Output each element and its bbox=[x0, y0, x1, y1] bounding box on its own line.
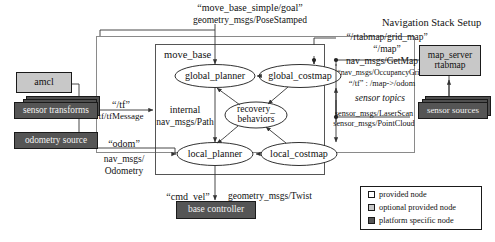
global-planner-node bbox=[175, 65, 255, 88]
laserscan-type-label: sensor_msgs/LaserScan bbox=[335, 110, 413, 119]
tf-type-label: tf/tfMessage bbox=[99, 112, 144, 121]
edge-recovery-to-local-planner bbox=[217, 126, 238, 143]
internal-label-line1: internal bbox=[170, 105, 201, 116]
legend-label-optional: optional provided node bbox=[379, 203, 456, 212]
node-sensor-transforms[interactable]: sensor transforms bbox=[14, 102, 98, 119]
sensor-topics-label: sensor topics bbox=[355, 94, 405, 104]
tf-map-odom-label: “/tf” : /map->/odom bbox=[349, 80, 415, 89]
odom-type-line2: Odometry bbox=[105, 167, 144, 177]
map-server-label-line2: rtabmap bbox=[434, 61, 465, 71]
edge-global-costmap-to-recovery bbox=[268, 87, 288, 104]
map-type-label: nav_msgs/GetMap bbox=[346, 57, 418, 67]
goal-topic-label: “move_base_simple/goal” bbox=[197, 3, 303, 14]
legend-swatch-optional bbox=[368, 204, 375, 211]
pointcloud-type-label: sensor_msgs/PointCloud bbox=[333, 120, 414, 129]
tf-topic-label: “/tf” bbox=[112, 100, 130, 111]
legend-swatch-platform bbox=[368, 217, 375, 224]
legend-row-platform: platform specific node bbox=[368, 216, 454, 225]
edge-goal-branch-left bbox=[100, 30, 215, 36]
node-base-controller[interactable]: base controller bbox=[176, 201, 256, 219]
junction-dot-costmap-bus bbox=[312, 58, 316, 62]
grid-map-topic-label: “/rtabmap/grid_map” bbox=[346, 33, 427, 43]
map-server-label-line1: map_server bbox=[428, 51, 472, 61]
goal-type-label: geometry_msgs/PoseStamped bbox=[193, 16, 307, 26]
odom-topic-label: “odom” bbox=[108, 139, 140, 150]
edge-outer-to-map-bus bbox=[314, 38, 336, 45]
legend-row-provided: provided node bbox=[368, 190, 427, 199]
legend-swatch-provided bbox=[368, 191, 375, 198]
local-planner-node bbox=[177, 143, 253, 166]
local-costmap-node bbox=[261, 143, 337, 166]
junction-dot-map-bus bbox=[334, 58, 338, 62]
navigation-stack-diagram: Navigation Stack Setup “move_base_simple… bbox=[0, 0, 495, 242]
global-costmap-node bbox=[259, 65, 341, 88]
legend-row-optional: optional provided node bbox=[368, 203, 456, 212]
page-title: Navigation Stack Setup bbox=[382, 17, 481, 28]
edge-recovery-to-global-planner bbox=[217, 88, 240, 105]
internal-label-line2: nav_msgs/Path bbox=[156, 118, 214, 128]
legend-label-platform: platform specific node bbox=[379, 216, 454, 225]
occupancy-type-label: “nav_msgs/OccupancyGrid” bbox=[337, 69, 427, 77]
move-base-container-label: move_base bbox=[164, 49, 211, 60]
node-sensor-sources[interactable]: sensor sources bbox=[418, 102, 488, 119]
odom-type-line1: nav_msgs/ bbox=[104, 155, 145, 165]
recovery-behaviors-node bbox=[225, 102, 287, 128]
map-topic-label: “/map” bbox=[373, 45, 400, 55]
node-amcl[interactable]: amcl bbox=[16, 72, 72, 93]
edge-local-costmap-to-recovery bbox=[266, 127, 286, 143]
legend-label-provided: provided node bbox=[379, 190, 427, 199]
node-map-server-rtabmap[interactable]: map_server rtabmap bbox=[419, 45, 481, 76]
node-odometry-source[interactable]: odometry source bbox=[14, 132, 98, 149]
